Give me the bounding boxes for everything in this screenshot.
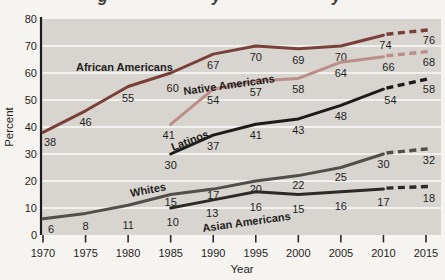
value-label: 17 xyxy=(377,196,389,208)
value-label: 22 xyxy=(292,179,304,191)
x-tick-label: 1975 xyxy=(73,247,97,259)
value-label: 67 xyxy=(207,59,219,71)
value-label: 16 xyxy=(335,200,347,212)
value-label: 32 xyxy=(423,154,435,166)
value-label: 8 xyxy=(82,220,88,232)
value-label: 60 xyxy=(167,82,179,94)
y-tick-label: 30 xyxy=(25,148,37,160)
value-label: 15 xyxy=(292,203,304,215)
value-label: 57 xyxy=(250,86,262,98)
value-label: 64 xyxy=(335,67,347,79)
figure: gyy 010203040506070801970197519801985199… xyxy=(0,0,445,280)
y-tick-label: 10 xyxy=(25,202,37,214)
x-axis-title: Year xyxy=(230,263,253,275)
x-tick-label: 1990 xyxy=(201,247,225,259)
y-tick-label: 50 xyxy=(25,94,37,106)
value-label: 18 xyxy=(423,192,435,204)
value-label: 58 xyxy=(292,83,304,95)
x-tick-label: 1995 xyxy=(244,247,268,259)
value-label: 43 xyxy=(292,124,304,136)
value-label: 74 xyxy=(379,39,391,51)
x-tick-label: 1985 xyxy=(158,247,182,259)
value-label: 37 xyxy=(207,140,219,152)
title-descender-fragment: y xyxy=(332,0,341,6)
value-label: 46 xyxy=(79,116,91,128)
value-label: 16 xyxy=(250,201,262,213)
value-label: 25 xyxy=(335,171,347,183)
value-label: 68 xyxy=(423,56,435,68)
x-tick-label: 2000 xyxy=(286,247,310,259)
y-axis-title: Percent xyxy=(3,106,15,146)
series-label-african-americans: African Americans xyxy=(76,61,173,73)
value-label: 58 xyxy=(423,83,435,95)
value-label: 38 xyxy=(44,136,56,148)
title-descender-fragment: y xyxy=(212,0,221,6)
y-tick-label: 20 xyxy=(25,175,37,187)
value-label: 48 xyxy=(335,110,347,122)
title-descender-fragment: g xyxy=(98,0,108,6)
value-label: 66 xyxy=(382,61,394,73)
value-label: 10 xyxy=(167,216,179,228)
y-tick-label: 60 xyxy=(25,67,37,79)
x-tick-label: 1970 xyxy=(31,247,55,259)
line-chart: 0102030405060708019701975198019851990199… xyxy=(0,0,445,280)
x-tick-label: 1980 xyxy=(116,247,140,259)
value-label: 30 xyxy=(377,158,389,170)
value-label: 54 xyxy=(207,94,219,106)
x-tick-label: 2015 xyxy=(414,247,438,259)
value-label: 70 xyxy=(250,51,262,63)
x-tick-label: 2010 xyxy=(371,247,395,259)
value-label: 13 xyxy=(206,207,218,219)
y-tick-label: 0 xyxy=(31,229,37,241)
value-label: 69 xyxy=(292,54,304,66)
value-label: 41 xyxy=(250,129,262,141)
value-label: 76 xyxy=(423,34,435,46)
value-label: 54 xyxy=(384,94,396,106)
value-label: 6 xyxy=(48,223,54,235)
cropped-title-fragments: gyy xyxy=(0,0,445,6)
y-tick-label: 40 xyxy=(25,121,37,133)
value-label: 30 xyxy=(165,159,177,171)
y-tick-label: 70 xyxy=(25,40,37,52)
value-label: 55 xyxy=(122,92,134,104)
x-tick-label: 2005 xyxy=(329,247,353,259)
y-tick-label: 80 xyxy=(25,13,37,25)
value-label: 11 xyxy=(122,219,133,231)
